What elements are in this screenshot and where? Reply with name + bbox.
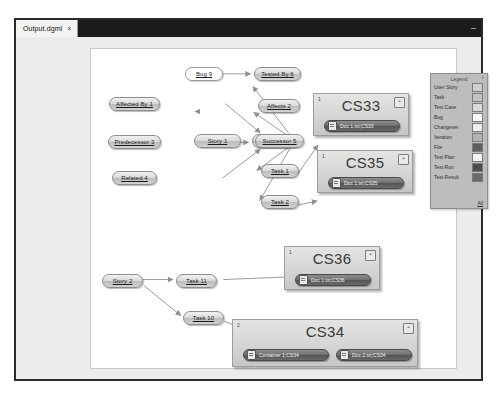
node-task1[interactable]: Task 1: [261, 164, 299, 178]
legend-item-swatch[interactable]: [472, 133, 483, 142]
node-label: Task 11: [186, 278, 207, 284]
node-label: Affects 2: [267, 103, 291, 109]
node-label: Task 2: [271, 199, 289, 205]
legend-title: Legend: [431, 74, 487, 82]
document-icon: [332, 178, 341, 188]
legend-item-label: Bug: [434, 114, 443, 120]
legend-item-swatch[interactable]: [472, 163, 483, 172]
node-label: Bug 9: [196, 71, 212, 77]
group-cs34[interactable]: 2 CS34 ⌃ Container 1;CS34 Doc 2.txt;CS34: [232, 319, 418, 367]
node-story1-main[interactable]: Story 1: [194, 134, 241, 148]
document-icon: [299, 275, 308, 285]
chevron-up-icon[interactable]: ˄: [481, 75, 484, 81]
legend-item-changeset[interactable]: Changeset: [431, 122, 487, 132]
legend-item-swatch[interactable]: [472, 153, 483, 162]
doc-node[interactable]: Doc 2.txt;CS34: [336, 349, 412, 361]
legend-item-test-run[interactable]: Test Run: [431, 162, 487, 172]
legend-item-label: Test Run: [434, 164, 454, 170]
node-testedby6[interactable]: Tested By 6: [254, 67, 301, 81]
node-story2[interactable]: Story 2: [102, 274, 143, 288]
legend-item-swatch[interactable]: [472, 93, 483, 102]
legend-item-label: Changeset: [434, 124, 458, 130]
doc-node[interactable]: Doc 1.txt;CS33: [324, 120, 400, 132]
close-icon[interactable]: ×: [67, 25, 71, 32]
expand-icon[interactable]: ⌃: [403, 323, 414, 334]
document-icon: [247, 350, 256, 360]
legend-item-label: Task: [434, 94, 444, 100]
document-icon: [328, 121, 337, 131]
node-task11[interactable]: Task 11: [176, 274, 217, 288]
legend-all-link[interactable]: All: [477, 200, 483, 206]
legend-item-test-plan[interactable]: Test Plan: [431, 152, 487, 162]
legend-item-swatch[interactable]: [472, 83, 483, 92]
legend-item-test-case[interactable]: Test Case: [431, 102, 487, 112]
document-icon: [340, 350, 349, 360]
legend-item-swatch[interactable]: [472, 173, 483, 182]
legend-item-task[interactable]: Task: [431, 92, 487, 102]
legend-item-label: Iteration: [434, 134, 452, 140]
legend-item-test-result[interactable]: Test Result: [431, 172, 487, 182]
doc-node[interactable]: Doc 1.txt;CS35: [328, 177, 404, 189]
window-body: Bug 9 Tested By 6 Affected By 1 Affects …: [16, 37, 481, 379]
group-cs35[interactable]: 1 CS35 ⌃ Doc 1.txt;CS35: [317, 150, 413, 193]
legend-item-label: Test Plan: [434, 154, 455, 160]
legend-rows: User StoryTaskTest CaseBugChangesetItera…: [431, 82, 487, 182]
legend-item-swatch[interactable]: [472, 103, 483, 112]
legend-item-swatch[interactable]: [472, 143, 483, 152]
application-window: Output.dgml ×: [14, 18, 483, 381]
legend-item-label: Test Case: [434, 104, 456, 110]
doc-node-label: Doc 1.txt;CS35: [344, 180, 378, 186]
node-related4[interactable]: Related 4: [112, 171, 157, 185]
doc-node[interactable]: Doc 1.txt;CS36: [295, 274, 371, 286]
expand-icon[interactable]: ⌃: [398, 154, 409, 165]
node-label: Story 2: [113, 278, 133, 284]
group-cs36[interactable]: 1 CS36 ⌃ Doc 1.txt;CS36: [284, 246, 380, 290]
doc-node-label: Container 1;CS34: [259, 352, 299, 358]
node-task2[interactable]: Task 2: [261, 195, 299, 209]
node-bug9[interactable]: Bug 9: [185, 67, 223, 81]
doc-node[interactable]: Container 1;CS34: [243, 349, 329, 361]
node-label: Tested By 6: [261, 71, 293, 77]
node-label: Story 1: [208, 138, 228, 144]
legend-item-iteration[interactable]: Iteration: [431, 132, 487, 142]
legend-item-file[interactable]: File: [431, 142, 487, 152]
legend-item-swatch[interactable]: [472, 113, 483, 122]
node-predecessor3[interactable]: Predecessor 3: [108, 135, 161, 149]
legend-item-swatch[interactable]: [472, 123, 483, 132]
doc-node-label: Doc 2.txt;CS34: [352, 352, 386, 358]
graph-canvas[interactable]: Bug 9 Tested By 6 Affected By 1 Affects …: [90, 48, 457, 369]
node-label: Successor 5: [262, 138, 296, 144]
doc-node-label: Doc 1.txt;CS33: [340, 123, 374, 129]
legend-panel[interactable]: Legend ˄ User StoryTaskTest CaseBugChang…: [430, 73, 488, 209]
expand-icon[interactable]: ⌃: [394, 97, 405, 108]
title-bar: Output.dgml ×: [16, 20, 481, 37]
node-label: Related 4: [121, 175, 148, 181]
expand-icon[interactable]: ⌃: [365, 250, 376, 261]
node-label: Task 1: [271, 168, 289, 174]
legend-item-bug[interactable]: Bug: [431, 112, 487, 122]
minimize-icon[interactable]: [471, 28, 476, 29]
node-label: Affected By 1: [116, 101, 153, 107]
node-label: Predecessor 3: [115, 139, 155, 145]
node-affectedby1[interactable]: Affected By 1: [109, 97, 160, 111]
node-successor5[interactable]: Successor 5: [255, 134, 304, 148]
doc-node-label: Doc 1.txt;CS36: [311, 277, 345, 283]
document-tab-label: Output.dgml: [23, 25, 62, 32]
group-title: CS34: [233, 323, 417, 340]
legend-item-user-story[interactable]: User Story: [431, 82, 487, 92]
legend-item-label: Test Result: [434, 174, 459, 180]
legend-item-label: User Story: [434, 84, 458, 90]
document-tab[interactable]: Output.dgml ×: [16, 20, 78, 37]
group-cs33[interactable]: 1 CS33 ⌃ Doc 1.txt;CS33: [313, 93, 409, 136]
legend-item-label: File: [434, 144, 442, 150]
node-label: Task 10: [193, 315, 214, 321]
node-task10[interactable]: Task 10: [183, 311, 224, 325]
node-affects2[interactable]: Affects 2: [258, 99, 300, 113]
